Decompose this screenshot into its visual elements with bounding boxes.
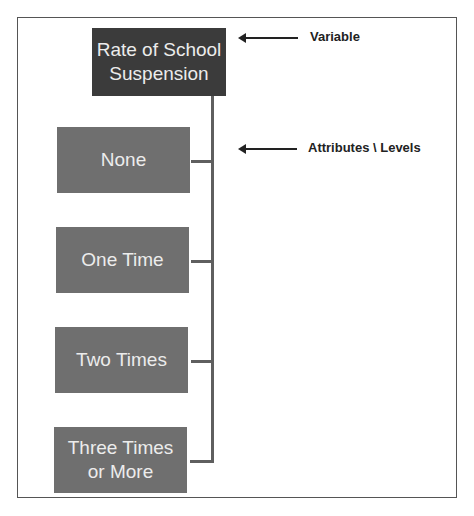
vertical-connector-line (211, 96, 214, 463)
attribute-box-label: Two Times (76, 348, 167, 372)
connector-none (191, 160, 212, 163)
variable-annotation: Variable (310, 29, 360, 44)
attribute-box-one-time: One Time (56, 227, 189, 293)
connector-two-times (191, 360, 212, 363)
variable-box: Rate of School Suspension (92, 28, 226, 96)
arrow-left-icon (244, 37, 298, 39)
attribute-box-none: None (57, 127, 190, 193)
attribute-box-two-times: Two Times (55, 327, 188, 393)
connector-one-time (191, 260, 212, 263)
attribute-box-three-times-or-more: Three Times or More (54, 427, 187, 493)
attribute-box-label-line2: or More (68, 460, 174, 484)
variable-box-line1: Rate of School (97, 38, 222, 62)
variable-box-line2: Suspension (97, 62, 222, 86)
connector-three-times-or-more (190, 460, 214, 463)
arrow-left-icon (244, 148, 297, 150)
attribute-box-label: None (101, 148, 146, 172)
attribute-box-label: One Time (81, 248, 163, 272)
attribute-box-label-line1: Three Times (68, 436, 174, 460)
attributes-annotation: Attributes \ Levels (308, 140, 421, 155)
